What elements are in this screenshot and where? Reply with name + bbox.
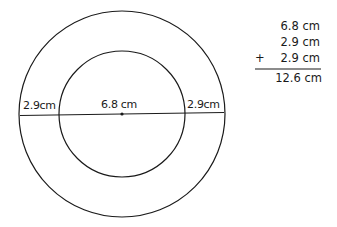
right-ring-label: 2.9cm <box>187 98 220 111</box>
center-point <box>120 112 123 115</box>
sum-plus-sign: + <box>255 51 265 65</box>
left-ring-label: 2.9cm <box>23 99 56 112</box>
inner-diameter-label: 6.8 cm <box>101 98 137 111</box>
sum-line-3: 2.9 cm <box>270 51 320 65</box>
sum-result: 12.6 cm <box>262 71 322 85</box>
sum-line-1: 6.8 cm <box>270 19 320 33</box>
sum-line-2: 2.9 cm <box>270 35 320 49</box>
